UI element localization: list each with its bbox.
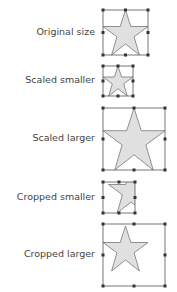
- scaled-smaller-frame[interactable]: [103, 66, 133, 96]
- cropped-smaller-frame[interactable]: [103, 182, 135, 213]
- label-cropped-smaller: Cropped smaller: [17, 191, 95, 202]
- star-shape: [103, 226, 148, 271]
- label-scaled-larger: Scaled larger: [32, 132, 95, 143]
- label-cropped-larger: Cropped larger: [24, 248, 95, 259]
- star-shape: [103, 108, 165, 170]
- cropped-larger-frame[interactable]: [103, 224, 165, 286]
- label-original-size: Original size: [36, 26, 95, 37]
- label-scaled-smaller: Scaled smaller: [25, 74, 95, 85]
- star-shape: [109, 168, 154, 213]
- star-shape: [103, 10, 148, 55]
- scaled-larger-frame[interactable]: [103, 108, 165, 170]
- star-shape: [103, 66, 133, 96]
- original-size-frame[interactable]: [103, 10, 148, 55]
